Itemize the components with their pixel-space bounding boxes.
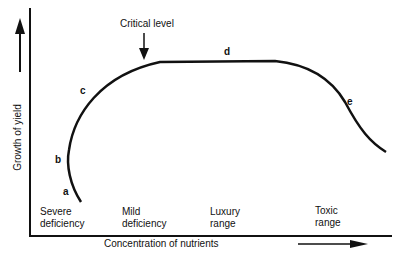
point-a: a: [63, 186, 69, 197]
range-severe: Severe deficiency: [40, 206, 84, 230]
response-curve: [68, 61, 386, 202]
point-e: e: [347, 96, 353, 107]
point-d: d: [224, 46, 230, 57]
range-toxic: Toxic range: [315, 205, 341, 229]
point-c: c: [80, 85, 86, 96]
critical-level-label: Critical level: [120, 18, 174, 30]
range-mild: Mild deficiency: [122, 206, 166, 230]
y-axis-label: Growth of yield: [12, 93, 23, 183]
range-luxury: Luxury range: [210, 206, 240, 230]
nutrient-response-diagram: Growth of yield Critical level a b c d e…: [0, 0, 406, 258]
x-axis-label: Concentration of nutrients: [104, 238, 219, 250]
point-b: b: [55, 154, 61, 165]
